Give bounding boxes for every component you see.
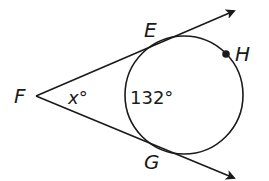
- label-angle-x: x°: [67, 87, 88, 108]
- tangent-ray-fg: [36, 96, 234, 178]
- tangent-circle-diagram: F E G H x° 132°: [0, 0, 269, 181]
- label-arc-measure: 132°: [130, 87, 173, 108]
- label-f: F: [14, 84, 26, 108]
- tangent-ray-fe: [36, 11, 234, 96]
- label-g: G: [144, 150, 160, 174]
- label-h: H: [235, 42, 250, 66]
- label-e: E: [144, 18, 157, 42]
- point-h-dot: [222, 50, 230, 58]
